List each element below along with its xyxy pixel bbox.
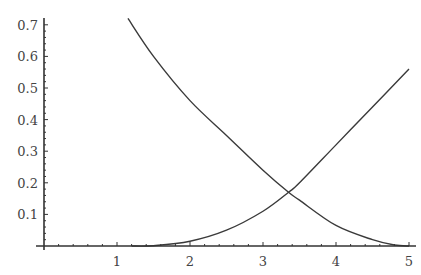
y-tick-label: 0.7 [17, 18, 38, 33]
plot-curves [128, 18, 409, 246]
x-tick-label: 5 [405, 254, 413, 269]
curve-increasing [132, 69, 409, 246]
x-tick-label: 3 [259, 254, 267, 269]
y-tick-label: 0.5 [17, 81, 38, 96]
curve-decreasing [128, 18, 409, 246]
x-tick-label: 1 [113, 254, 121, 269]
y-tick-label: 0.6 [17, 49, 38, 64]
x-tick-label: 4 [332, 254, 340, 269]
y-tick-label: 0.4 [17, 113, 38, 128]
x-tick-label: 2 [186, 254, 194, 269]
y-tick-label: 0.1 [17, 207, 38, 222]
y-tick-label: 0.3 [17, 144, 38, 159]
line-chart: 0.10.20.30.40.50.60.7 12345 [0, 0, 421, 275]
y-tick-label: 0.2 [17, 176, 38, 191]
